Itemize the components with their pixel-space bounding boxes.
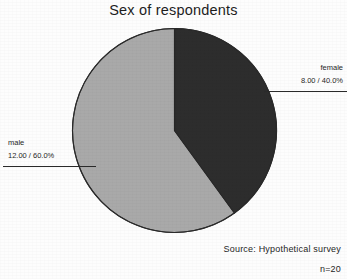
pie-chart <box>70 26 279 235</box>
pie-chart-svg <box>70 26 279 235</box>
slice-label-female-value: 8.00 / 40.0% <box>247 76 343 87</box>
sample-size-note: n=20 <box>224 264 341 275</box>
chart-page: Sex of respondents female 8.00 / 40.0% m… <box>0 0 347 279</box>
leader-line-female <box>264 91 347 92</box>
slice-label-male: male 12.00 / 60.0% <box>4 138 102 162</box>
slice-label-male-name: male <box>8 138 102 149</box>
slice-label-male-value: 12.00 / 60.0% <box>8 151 102 162</box>
page-title: Sex of respondents <box>0 2 347 18</box>
leader-line-male <box>3 166 96 167</box>
slice-label-female: female 8.00 / 40.0% <box>247 63 345 87</box>
slice-label-female-name: female <box>247 63 343 74</box>
chart-footer: Source: Hypothetical survey n=20 <box>224 244 341 275</box>
source-note: Source: Hypothetical survey <box>224 244 341 255</box>
